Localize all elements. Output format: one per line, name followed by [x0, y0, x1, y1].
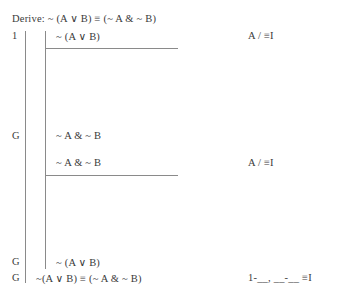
line-label-1: 1 — [12, 30, 28, 41]
line-formula-4: ~ (A ∨ B) — [56, 256, 100, 268]
line-formula-3: ~ A & ~ B — [56, 157, 101, 168]
line-label-4: G — [12, 256, 28, 267]
line-justification-5: 1-__, __-__ ≡I — [248, 272, 312, 283]
assumption-rule-2 — [45, 175, 178, 176]
derive-goal-header: Derive: ~ (A ∨ B) ≡ (~ A & ~ B) — [12, 12, 156, 24]
proof-sheet: Derive: ~ (A ∨ B) ≡ (~ A & ~ B) 1 ~ (A ∨… — [0, 0, 345, 302]
line-justification-1: A / ≡I — [248, 30, 274, 41]
line-formula-5: ~(A ∨ B) ≡ (~ A & ~ B) — [36, 272, 142, 284]
line-label-5: G — [12, 272, 28, 283]
line-formula-2: ~ A & ~ B — [56, 130, 101, 141]
line-label-2: G — [12, 130, 28, 141]
outer-proof-bar — [25, 31, 26, 283]
inner-subproof-bar — [45, 31, 46, 269]
assumption-rule-1 — [45, 48, 178, 49]
line-formula-1: ~ (A ∨ B) — [56, 30, 100, 42]
line-justification-3: A / ≡I — [248, 157, 274, 168]
